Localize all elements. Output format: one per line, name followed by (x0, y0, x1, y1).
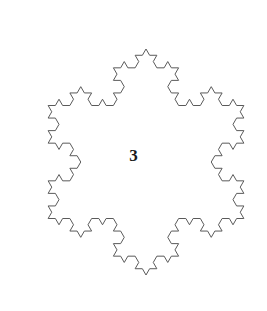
figure-canvas: 3 (0, 0, 267, 311)
iteration-number-label: 3 (0, 146, 267, 166)
